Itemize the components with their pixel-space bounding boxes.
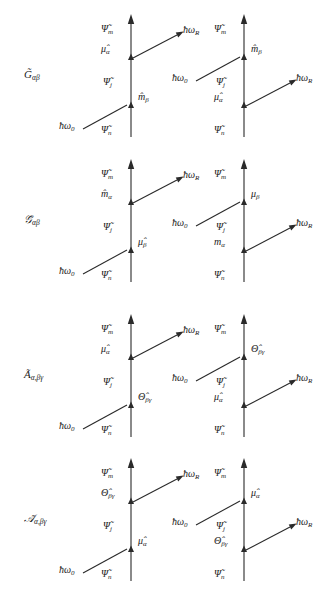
lower-vertex-operator-label-subscript: βγ bbox=[221, 540, 227, 548]
row-Ascript: 𝒜̃α,βγΨ̃mΨ̃jΨ̃nΘ̂βγμ̂αħω0ħωRΨ̃mΨ̃jΨ̃nμ̂α… bbox=[0, 452, 318, 582]
state-label-bottom-base: Ψ̃ bbox=[214, 424, 221, 435]
row-Gscript: 𝒢̃αβΨ̃mΨ̃jΨ̃nm̂αμ̂βħω0ħωRΨ̃mΨ̃jΨ̃nμβmαħω… bbox=[0, 153, 318, 283]
state-label-top-base: Ψ̃ bbox=[214, 467, 221, 478]
outgoing-photon-label-subscript: R bbox=[308, 377, 312, 385]
panel-A-right: Ψ̃mΨ̃jΨ̃nΘ̂βγμ̂αħω0ħωR bbox=[0, 308, 318, 438]
state-label-middle-subscript: j bbox=[223, 81, 225, 89]
panel-lines-A-right bbox=[0, 308, 318, 438]
state-label-middle: Ψ̃j bbox=[216, 222, 225, 234]
state-label-bottom-base: Ψ̃ bbox=[214, 124, 221, 135]
state-label-top: Ψ̃m bbox=[214, 324, 226, 336]
incoming-photon-label-subscript: 0 bbox=[184, 377, 188, 385]
state-label-top-subscript: m bbox=[221, 472, 226, 480]
propagator-arrowhead bbox=[241, 314, 247, 324]
outgoing-photon-label-base: ħω bbox=[296, 372, 308, 383]
state-label-middle: Ψ̃j bbox=[216, 377, 225, 389]
state-label-top-subscript: m bbox=[221, 28, 226, 36]
state-label-bottom-base: Ψ̃ bbox=[214, 568, 221, 579]
state-label-middle-base: Ψ̃ bbox=[216, 520, 223, 531]
state-label-middle-base: Ψ̃ bbox=[216, 76, 223, 87]
outgoing-photon-label: ħωR bbox=[296, 517, 312, 529]
incoming-photon-label: ħω0 bbox=[172, 218, 188, 230]
incoming-photon-label: ħω0 bbox=[172, 517, 188, 529]
state-label-top-base: Ψ̃ bbox=[214, 23, 221, 34]
outgoing-photon-label: ħωR bbox=[296, 218, 312, 230]
row-A: Ãα,βγΨ̃mΨ̃jΨ̃nμ̂αΘ̂βγħω0ħωRΨ̃mΨ̃jΨ̃nΘ̂βγ… bbox=[0, 308, 318, 438]
outgoing-photon-label-subscript: R bbox=[308, 521, 312, 529]
lower-vertex-operator-label-subscript: α bbox=[219, 396, 223, 404]
lower-vertex-operator-label-subscript: α bbox=[219, 96, 223, 104]
panel-lines-Gscript-right bbox=[0, 153, 318, 283]
outgoing-photon-label: ħωR bbox=[296, 73, 312, 85]
incoming-photon-label-base: ħω bbox=[172, 72, 184, 83]
lower-vertex-marker bbox=[241, 546, 247, 553]
feynman-diagram-figure: G̃αβΨ̃mΨ̃jΨ̃nμ̂αm̂βħω0ħωRΨ̃mΨ̃jΨ̃nm̂βμ̂α… bbox=[0, 0, 318, 597]
incoming-photon-label-base: ħω bbox=[172, 372, 184, 383]
outgoing-photon-line bbox=[246, 83, 290, 106]
propagator-arrowhead bbox=[241, 159, 247, 169]
state-label-bottom: Ψ̃n bbox=[214, 270, 225, 282]
outgoing-photon-label-base: ħω bbox=[296, 72, 308, 83]
upper-vertex-operator-label-subscript: βγ bbox=[258, 348, 264, 356]
incoming-photon-label-subscript: 0 bbox=[184, 521, 188, 529]
state-label-middle-subscript: j bbox=[223, 525, 225, 533]
state-label-bottom: Ψ̃n bbox=[214, 569, 225, 581]
state-label-middle: Ψ̃j bbox=[216, 77, 225, 89]
upper-vertex-operator-label: m̂β bbox=[251, 44, 262, 56]
lower-vertex-operator-label-subscript: α bbox=[221, 241, 225, 249]
upper-vertex-operator-label: μβ bbox=[251, 189, 260, 201]
upper-vertex-operator-label-subscript: β bbox=[256, 193, 260, 201]
state-label-top-subscript: m bbox=[221, 173, 226, 181]
state-label-middle-subscript: j bbox=[223, 226, 225, 234]
outgoing-photon-line bbox=[246, 228, 290, 251]
state-label-middle-subscript: j bbox=[223, 381, 225, 389]
lower-vertex-operator-label: μ̂α bbox=[214, 92, 223, 104]
lower-vertex-marker bbox=[241, 247, 247, 254]
outgoing-photon-label-subscript: R bbox=[308, 222, 312, 230]
lower-vertex-operator-label: mα bbox=[214, 237, 225, 249]
state-label-bottom: Ψ̃n bbox=[214, 125, 225, 137]
state-label-bottom-subscript: n bbox=[221, 129, 225, 137]
state-label-bottom-subscript: n bbox=[221, 573, 225, 581]
row-G: G̃αβΨ̃mΨ̃jΨ̃nμ̂αm̂βħω0ħωRΨ̃mΨ̃jΨ̃nm̂βμ̂α… bbox=[0, 8, 318, 138]
panel-G-right: Ψ̃mΨ̃jΨ̃nm̂βμ̂αħω0ħωR bbox=[0, 8, 318, 138]
state-label-bottom-subscript: n bbox=[221, 274, 225, 282]
incoming-photon-label-subscript: 0 bbox=[184, 77, 188, 85]
upper-vertex-marker bbox=[241, 354, 247, 361]
state-label-middle-base: Ψ̃ bbox=[216, 376, 223, 387]
state-label-top: Ψ̃m bbox=[214, 468, 226, 480]
lower-vertex-operator-label: μ̂α bbox=[214, 392, 223, 404]
lower-vertex-marker bbox=[241, 102, 247, 109]
lower-vertex-operator-label: Θ̂βγ bbox=[214, 536, 227, 548]
state-label-top-subscript: m bbox=[221, 328, 226, 336]
state-label-bottom-base: Ψ̃ bbox=[214, 269, 221, 280]
propagator-arrowhead bbox=[241, 458, 247, 468]
outgoing-photon-label: ħωR bbox=[296, 373, 312, 385]
state-label-bottom-subscript: n bbox=[221, 429, 225, 437]
outgoing-photon-line bbox=[246, 527, 290, 550]
upper-vertex-operator-label: μ̂α bbox=[251, 488, 260, 500]
upper-vertex-operator-label: Θ̂βγ bbox=[251, 344, 264, 356]
state-label-middle-base: Ψ̃ bbox=[216, 221, 223, 232]
upper-vertex-marker bbox=[241, 199, 247, 206]
panel-lines-Ascript-right bbox=[0, 452, 318, 582]
upper-vertex-marker bbox=[241, 54, 247, 61]
upper-vertex-marker bbox=[241, 498, 247, 505]
outgoing-photon-line bbox=[246, 383, 290, 406]
incoming-photon-label-base: ħω bbox=[172, 217, 184, 228]
outgoing-photon-label-subscript: R bbox=[308, 77, 312, 85]
state-label-top-base: Ψ̃ bbox=[214, 168, 221, 179]
incoming-photon-label: ħω0 bbox=[172, 373, 188, 385]
state-label-top: Ψ̃m bbox=[214, 24, 226, 36]
panel-Gscript-right: Ψ̃mΨ̃jΨ̃nμβmαħω0ħωR bbox=[0, 153, 318, 283]
state-label-top: Ψ̃m bbox=[214, 169, 226, 181]
state-label-middle: Ψ̃j bbox=[216, 521, 225, 533]
lower-vertex-marker bbox=[241, 402, 247, 409]
outgoing-photon-label-base: ħω bbox=[296, 217, 308, 228]
upper-vertex-operator-label-subscript: β bbox=[258, 48, 262, 56]
incoming-photon-label-subscript: 0 bbox=[184, 222, 188, 230]
state-label-top-base: Ψ̃ bbox=[214, 323, 221, 334]
panel-lines-G-right bbox=[0, 8, 318, 138]
propagator-arrowhead bbox=[241, 14, 247, 24]
state-label-bottom: Ψ̃n bbox=[214, 425, 225, 437]
